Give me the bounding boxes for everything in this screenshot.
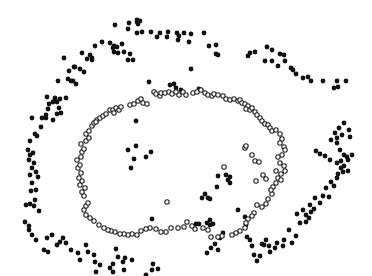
filled-point <box>132 157 137 162</box>
filled-point <box>64 96 69 101</box>
filled-point <box>236 208 241 213</box>
filled-point <box>214 52 219 57</box>
filled-point <box>309 79 314 84</box>
filled-point <box>270 48 275 53</box>
hollow-point <box>230 233 234 237</box>
filled-point <box>342 164 347 169</box>
filled-point <box>108 41 113 46</box>
hollow-point <box>164 230 168 234</box>
filled-point <box>76 251 81 256</box>
filled-point <box>314 149 319 154</box>
filled-point <box>55 112 60 117</box>
filled-point <box>108 266 113 271</box>
filled-point <box>128 52 133 57</box>
filled-point <box>92 253 97 258</box>
hollow-point <box>257 160 261 164</box>
filled-point <box>216 248 221 253</box>
filled-point <box>149 30 154 35</box>
hollow-point <box>279 178 283 182</box>
filled-point <box>30 166 35 171</box>
hollow-point <box>87 129 91 133</box>
filled-point <box>45 95 50 100</box>
hollow-point <box>88 216 92 220</box>
filled-point <box>252 253 257 258</box>
filled-point <box>294 234 299 239</box>
hollow-point <box>278 161 282 165</box>
filled-point <box>131 58 136 63</box>
filled-point <box>273 246 278 251</box>
filled-point <box>200 196 205 201</box>
filled-point <box>134 144 139 149</box>
filled-point <box>64 241 69 246</box>
hollow-point <box>216 235 220 239</box>
filled-point <box>197 222 202 227</box>
filled-point <box>208 218 213 223</box>
filled-point <box>86 250 91 255</box>
filled-point <box>29 189 34 194</box>
hollow-point <box>119 105 123 109</box>
hollow-point <box>79 155 83 159</box>
hollow-point <box>190 224 194 228</box>
filled-point <box>30 181 35 186</box>
filled-point <box>35 134 40 139</box>
filled-point <box>23 220 28 225</box>
filled-point <box>282 238 287 243</box>
filled-point <box>80 51 85 56</box>
plot-background <box>0 0 372 276</box>
filled-point <box>69 79 74 84</box>
filled-point <box>84 243 89 248</box>
filled-point <box>62 56 67 61</box>
filled-point <box>34 238 39 243</box>
hollow-point <box>244 144 248 148</box>
hollow-point <box>75 158 79 162</box>
filled-point <box>228 181 233 186</box>
filled-point <box>138 19 143 24</box>
hollow-point <box>118 232 122 236</box>
filled-point <box>208 197 213 202</box>
filled-point <box>127 21 132 26</box>
filled-point <box>346 169 351 174</box>
hollow-point <box>135 233 139 237</box>
hollow-point <box>282 164 286 168</box>
filled-point <box>69 248 74 253</box>
filled-point <box>275 241 280 246</box>
hollow-point <box>154 227 158 231</box>
filled-point <box>313 196 318 201</box>
filled-point <box>304 220 309 225</box>
hollow-point <box>144 227 148 231</box>
filled-point <box>337 126 342 131</box>
filled-point <box>189 32 194 37</box>
hollow-point <box>250 214 254 218</box>
filled-point <box>348 135 353 140</box>
filled-point <box>340 133 345 138</box>
filled-point <box>283 59 288 64</box>
filled-point <box>56 79 61 84</box>
filled-point <box>168 83 173 88</box>
filled-point <box>90 58 95 63</box>
filled-point <box>149 150 154 155</box>
filled-point <box>144 155 149 160</box>
hollow-point <box>222 165 226 169</box>
filled-point <box>28 173 33 178</box>
hollow-point <box>94 120 98 124</box>
filled-point <box>27 158 32 163</box>
filled-point <box>37 209 42 214</box>
hollow-point <box>274 181 278 185</box>
hollow-point <box>264 202 268 206</box>
filled-point <box>140 30 145 35</box>
filled-point <box>72 65 77 70</box>
filled-point <box>342 153 347 158</box>
filled-point <box>318 152 323 157</box>
filled-point <box>36 175 41 180</box>
hollow-point <box>279 172 283 176</box>
filled-point <box>301 76 306 81</box>
filled-point <box>306 75 311 80</box>
filled-point <box>294 72 299 77</box>
filled-point <box>61 236 66 241</box>
filled-point <box>46 107 51 112</box>
hollow-point <box>260 205 264 209</box>
filled-point <box>214 43 219 48</box>
filled-point <box>150 268 155 273</box>
filled-point <box>39 125 44 130</box>
filled-point <box>98 263 103 268</box>
